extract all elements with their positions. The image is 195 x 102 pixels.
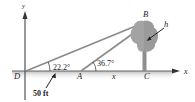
sight-line-D-B — [26, 23, 143, 71]
angle-label-D: 22.2° — [53, 63, 70, 72]
distance-label-DA: 50 ft — [33, 89, 49, 98]
distance-label-AC: x — [111, 72, 116, 81]
y-axis — [23, 11, 28, 100]
point-label-D: D — [13, 71, 21, 81]
x-axis-label: x — [183, 67, 188, 76]
angle-label-A: 36.7° — [97, 59, 114, 68]
height-label: h — [164, 19, 168, 29]
y-axis-arrow-icon — [23, 11, 28, 19]
point-label-C: C — [144, 71, 150, 81]
surveying-diagram: y x 22.2° 36.7° D A C B x 50 ft h — [0, 0, 195, 102]
point-label-B: B — [143, 9, 148, 19]
angle-arc-A — [93, 62, 96, 71]
point-label-A: A — [76, 71, 83, 81]
y-axis-label: y — [21, 2, 26, 10]
tree-icon — [131, 21, 158, 71]
angle-arc-D — [48, 62, 50, 71]
x-axis-arrow-icon — [172, 69, 180, 74]
